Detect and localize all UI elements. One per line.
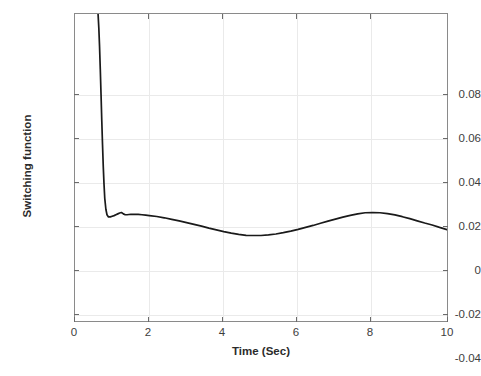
xtick-mark-2: [148, 317, 149, 322]
x-axis-title: Time (Sec): [74, 345, 448, 357]
xtick-label-8: 8: [350, 326, 390, 339]
plot-area: [74, 13, 448, 322]
ytick-mark--0.02: [74, 314, 79, 315]
y-axis-title: Switching function: [21, 76, 33, 256]
ytick-label-0: 0: [413, 264, 481, 276]
xtick-label-2: 2: [128, 326, 168, 339]
ytick-mark-0: [74, 270, 79, 271]
xtick-mark-top-2: [148, 14, 149, 19]
xtick-label-10: 10: [427, 326, 467, 339]
ytick-mark-0.02: [74, 226, 79, 227]
xtick-mark-6: [296, 317, 297, 322]
xtick-mark-10: [447, 317, 448, 322]
series-line-switching-function: [98, 14, 447, 236]
switching-function-curve: [75, 14, 447, 321]
xtick-mark-top-8: [370, 14, 371, 19]
xtick-mark-8: [370, 317, 371, 322]
ytick-mark-0.06: [74, 138, 79, 139]
ytick-mark-0.08: [74, 182, 79, 183]
xtick-label-0: 0: [54, 326, 94, 339]
ytick-label-0.02: 0.02: [413, 220, 481, 232]
ytick-mark-0.04: [74, 94, 79, 95]
figure-canvas: 0.08 0.06 0.04 0.02 0 -0.02 -0.04 0 2 4 …: [0, 0, 481, 376]
ytick-label-0.08: 0.08: [413, 88, 481, 100]
xtick-label-4: 4: [202, 326, 242, 339]
xtick-mark-4: [222, 317, 223, 322]
xtick-mark-0: [74, 317, 75, 322]
xtick-mark-top-4: [222, 14, 223, 19]
ytick-label-0.04: 0.04: [413, 176, 481, 188]
xtick-label-6: 6: [276, 326, 316, 339]
xtick-mark-top-6: [296, 14, 297, 19]
ytick-label-0.06: 0.06: [413, 132, 481, 144]
